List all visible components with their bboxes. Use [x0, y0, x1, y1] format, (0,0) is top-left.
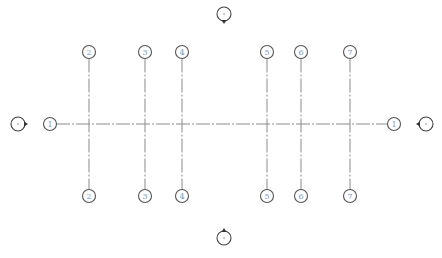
grid-bubble-4-top[interactable]: 4 — [176, 46, 189, 59]
grid-bubble-label: 6 — [298, 48, 303, 57]
elevation-center-dot — [223, 13, 225, 15]
grid-bubble-label: 6 — [298, 192, 303, 201]
grid-bubble-7-top[interactable]: 7 — [344, 46, 357, 59]
grid-bubble-6-bottom[interactable]: 6 — [295, 190, 308, 203]
grid-bubble-label: 2 — [86, 192, 91, 201]
grid-bubble-label: 4 — [179, 192, 184, 201]
grid-bubble-label: 2 — [86, 48, 91, 57]
grid-bubble-2-top[interactable]: 2 — [83, 46, 96, 59]
elevation-arrow-icon — [222, 228, 227, 232]
elevation-marker-west[interactable] — [11, 117, 28, 131]
grid-bubble-5-bottom[interactable]: 5 — [261, 190, 274, 203]
grid-bubble-label: 1 — [47, 120, 52, 129]
grid-lines — [56, 59, 388, 190]
elevation-center-dot — [223, 237, 225, 239]
elevation-markers — [11, 7, 433, 245]
grid-bubble-4-bottom[interactable]: 4 — [176, 190, 189, 203]
grid-bubble-label: 1 — [391, 120, 396, 129]
grid-bubble-6-top[interactable]: 6 — [295, 46, 308, 59]
elevation-arrow-icon — [416, 122, 420, 127]
grid-bubble-3-bottom[interactable]: 3 — [139, 190, 152, 203]
grid-bubble-label: 7 — [347, 48, 352, 57]
elevation-center-dot — [425, 123, 427, 125]
grid-bubble-label: 3 — [142, 192, 147, 201]
elevation-marker-east[interactable] — [416, 117, 433, 131]
grid-bubble-2-bottom[interactable]: 2 — [83, 190, 96, 203]
grid-bubble-5-top[interactable]: 5 — [261, 46, 274, 59]
grid-bubble-label: 3 — [142, 48, 147, 57]
grid-bubble-label: 5 — [264, 48, 269, 57]
grid-bubble-label: 7 — [347, 192, 352, 201]
grid-bubble-label: 4 — [179, 48, 184, 57]
grid-bubble-3-top[interactable]: 3 — [139, 46, 152, 59]
grid-bubble-1-right[interactable]: 1 — [388, 118, 401, 131]
elevation-arrow-icon — [24, 122, 28, 127]
grid-bubble-7-bottom[interactable]: 7 — [344, 190, 357, 203]
elevation-arrow-icon — [222, 20, 227, 24]
grid-bubble-label: 5 — [264, 192, 269, 201]
elevation-marker-north[interactable] — [217, 7, 231, 24]
grid-plan-canvas: 11223344556677 — [0, 0, 442, 258]
elevation-center-dot — [17, 123, 19, 125]
grid-bubble-1-left[interactable]: 1 — [44, 118, 57, 131]
elevation-marker-south[interactable] — [217, 228, 231, 245]
